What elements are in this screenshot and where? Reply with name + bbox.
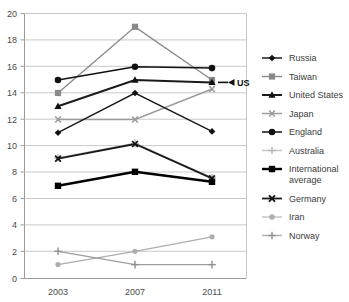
legend-item-international-average[interactable]: International average bbox=[262, 164, 339, 185]
legend-label-average: average bbox=[289, 175, 322, 185]
y-tick-marks bbox=[21, 14, 25, 279]
series-taiwan bbox=[55, 24, 215, 96]
line-chart: 20 18 16 14 12 10 8 6 4 2 0 2003 2007 20… bbox=[0, 0, 349, 302]
legend-item-norway[interactable]: Norway bbox=[262, 231, 320, 241]
diamond-marker-icon bbox=[269, 55, 276, 62]
plus-marker-icon bbox=[268, 147, 276, 155]
x-tick-2011: 2011 bbox=[202, 287, 221, 297]
us-annotation-label: US bbox=[237, 78, 250, 88]
chart-legend: Russia Taiwan United States bbox=[262, 53, 344, 241]
legend-label-russia: Russia bbox=[289, 53, 317, 63]
legend-item-japan[interactable]: Japan bbox=[262, 109, 314, 119]
legend-item-russia[interactable]: Russia bbox=[262, 53, 317, 63]
y-tick-14: 14 bbox=[7, 88, 17, 98]
y-tick-12: 12 bbox=[7, 115, 17, 125]
legend-label-iran: Iran bbox=[289, 212, 305, 222]
plus-marker-icon bbox=[268, 232, 276, 240]
y-tick-6: 6 bbox=[12, 194, 17, 204]
x-axis-labels: 2003 2007 2011 bbox=[48, 287, 222, 297]
y-tick-0: 0 bbox=[12, 274, 17, 284]
y-tick-4: 4 bbox=[12, 220, 17, 230]
legend-item-iran[interactable]: Iran bbox=[262, 212, 305, 222]
us-annotation: US bbox=[218, 78, 250, 88]
y-tick-10: 10 bbox=[7, 141, 17, 151]
circle-marker-icon bbox=[269, 214, 275, 220]
y-tick-2: 2 bbox=[12, 247, 17, 257]
legend-label-england: England bbox=[289, 127, 322, 137]
legend-label-australia: Australia bbox=[289, 146, 324, 156]
legend-label-norway: Norway bbox=[289, 231, 320, 241]
legend-item-england[interactable]: England bbox=[262, 127, 322, 137]
chart-screenshot: 20 18 16 14 12 10 8 6 4 2 0 2003 2007 20… bbox=[0, 0, 349, 302]
y-tick-20: 20 bbox=[7, 9, 17, 19]
legend-item-united-states[interactable]: United States bbox=[262, 90, 344, 100]
legend-label-international: International bbox=[289, 164, 339, 174]
legend-label-germany: Germany bbox=[289, 194, 327, 204]
legend-item-australia[interactable]: Australia bbox=[262, 146, 324, 156]
legend-item-taiwan[interactable]: Taiwan bbox=[262, 72, 317, 82]
legend-label-taiwan: Taiwan bbox=[289, 72, 317, 82]
y-tick-16: 16 bbox=[7, 62, 17, 72]
y-tick-8: 8 bbox=[12, 167, 17, 177]
square-marker-icon bbox=[269, 166, 275, 172]
x-tick-2003: 2003 bbox=[48, 287, 68, 297]
x-tick-2007: 2007 bbox=[125, 287, 145, 297]
y-axis-labels: 20 18 16 14 12 10 8 6 4 2 0 bbox=[7, 9, 17, 284]
legend-label-united-states: United States bbox=[289, 90, 344, 100]
legend-item-germany[interactable]: Germany bbox=[262, 194, 327, 204]
chart-canvas: 20 18 16 14 12 10 8 6 4 2 0 2003 2007 20… bbox=[0, 0, 349, 302]
circle-marker-icon bbox=[269, 129, 276, 136]
us-arrow-icon bbox=[228, 79, 235, 86]
legend-label-japan: Japan bbox=[289, 109, 314, 119]
y-tick-18: 18 bbox=[7, 35, 17, 45]
square-marker-icon bbox=[269, 73, 275, 79]
